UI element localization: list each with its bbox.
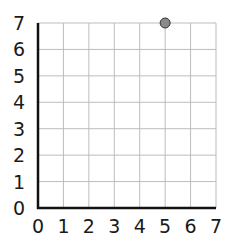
x-tick-label: 3 [108,215,120,237]
y-tick-label: 3 [13,118,25,140]
x-tick-label: 4 [134,215,146,237]
data-point [160,18,170,28]
y-tick-label: 0 [13,197,25,219]
coordinate-grid-chart: 0123456701234567 [0,0,231,243]
x-tick-label: 5 [159,215,171,237]
x-tick-label: 6 [185,215,197,237]
y-tick-label: 2 [13,144,25,166]
y-tick-label: 5 [13,65,25,87]
y-tick-label: 6 [13,38,25,60]
y-tick-label: 4 [13,91,25,113]
y-tick-label: 7 [13,12,25,34]
x-tick-label: 1 [57,215,69,237]
x-tick-label: 2 [83,215,95,237]
x-tick-label: 7 [210,215,222,237]
x-tick-label: 0 [32,215,44,237]
y-tick-label: 1 [13,171,25,193]
